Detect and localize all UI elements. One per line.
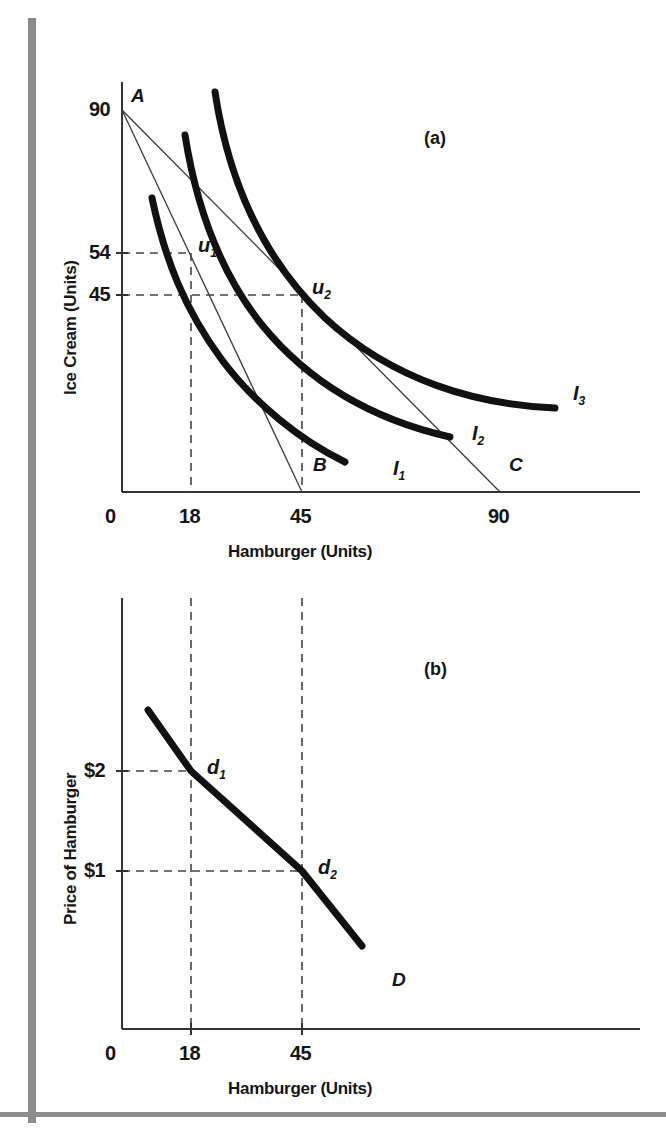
point-label-d1-text: d <box>207 756 219 778</box>
point-label-d2: d2 <box>318 857 337 881</box>
panel-a-xtick-label-90: 90 <box>488 506 509 526</box>
point-label-u1: u1 <box>198 235 217 259</box>
curve-label-demand: D <box>392 970 406 989</box>
panel-b-xtick-label-18: 18 <box>179 1043 200 1063</box>
panel-a-xtick-label-45: 45 <box>290 506 311 526</box>
point-label-d1: d1 <box>207 757 226 781</box>
curve-label-i2: I2 <box>472 423 484 447</box>
point-label-d1-subscript: 1 <box>219 768 226 782</box>
panel-a-ytick-label-45: 45 <box>89 284 110 304</box>
indifference-curve-i3 <box>215 92 555 408</box>
panel-b-y-axis-title: Price of Hamburger <box>62 773 79 925</box>
panel-b-ytick-label-2: $2 <box>84 760 105 780</box>
panel-a-xtick-label-0: 0 <box>105 506 116 526</box>
panel-b-graphics <box>116 598 640 1035</box>
panel-a-x-axis-title: Hamburger (Units) <box>228 543 372 560</box>
curve-label-i1-subscript: 1 <box>399 469 406 483</box>
point-label-u2-text: u <box>312 276 324 298</box>
curve-label-i3-subscript: 3 <box>579 394 586 408</box>
panel-a-ytick-label-90: 90 <box>89 99 110 119</box>
figure-page: Ice Cream (Units) 90 54 45 0 18 45 90 Ha… <box>0 0 666 1141</box>
point-label-u2-subscript: 2 <box>324 288 331 302</box>
panel-b-xtick-label-45: 45 <box>290 1043 311 1063</box>
panel-b-ytick-label-1: $1 <box>84 860 105 880</box>
panel-b-xtick-label-0: 0 <box>105 1043 116 1063</box>
economics-figure: Ice Cream (Units) 90 54 45 0 18 45 90 Ha… <box>0 0 666 1141</box>
curve-label-i3: I3 <box>573 383 585 407</box>
point-label-u1-subscript: 1 <box>210 246 217 260</box>
plot-canvas <box>0 0 666 1141</box>
point-label-b: B <box>313 455 327 474</box>
point-label-d2-text: d <box>318 856 330 878</box>
curve-label-i2-subscript: 2 <box>478 434 485 448</box>
point-label-a: A <box>131 86 145 105</box>
panel-a-identifier: (a) <box>424 129 446 147</box>
demand-curve-d <box>148 710 362 946</box>
point-label-u1-text: u <box>198 234 210 256</box>
curve-label-i1: I1 <box>393 458 405 482</box>
budget-line-ab <box>122 110 302 492</box>
panel-a-xtick-label-18: 18 <box>179 506 200 526</box>
point-label-u2: u2 <box>312 277 331 301</box>
point-label-d2-subscript: 2 <box>330 868 337 882</box>
panel-b-identifier: (b) <box>424 660 447 678</box>
point-label-c: C <box>509 455 523 474</box>
panel-a-ytick-label-54: 54 <box>89 242 110 262</box>
panel-a-y-axis-title: Ice Cream (Units) <box>62 260 79 395</box>
panel-a-graphics <box>116 82 640 492</box>
panel-b-x-axis-title: Hamburger (Units) <box>228 1080 372 1097</box>
